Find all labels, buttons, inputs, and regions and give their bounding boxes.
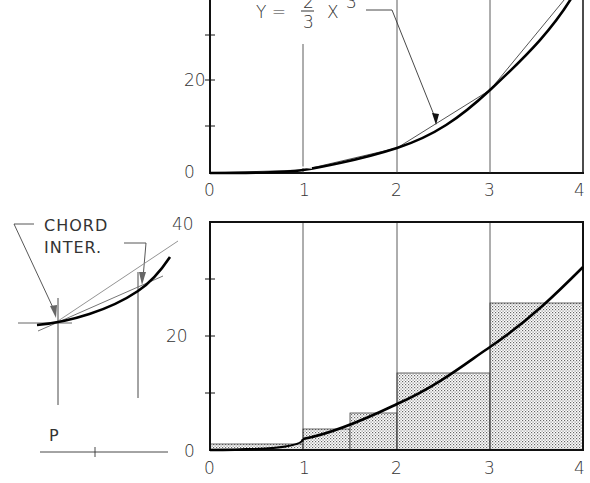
bottom-xtick-1: 1 — [299, 458, 310, 478]
bar-1.5-2 — [350, 413, 397, 450]
bottom-xtick-3: 3 — [484, 458, 495, 478]
top-xtick-4: 4 — [574, 180, 585, 200]
eq-den: 3 — [303, 12, 314, 32]
top-ytick-0: 0 — [184, 162, 195, 182]
bottom-ytick-40: 40 — [172, 214, 194, 234]
top-xtick-1: 1 — [299, 180, 310, 200]
top-xtick-2: 2 — [391, 180, 402, 200]
bottom-ytick-20: 20 — [166, 326, 188, 346]
inset-label-inter: INTER. — [44, 238, 102, 257]
top-chart: Y = 2 3 X 3 20 0 0 1 2 3 4 — [184, 0, 585, 200]
inset-label-p: P — [49, 426, 60, 445]
eq-leader — [366, 10, 436, 120]
bar-2-3 — [397, 373, 490, 450]
top-curve — [210, 0, 583, 173]
bottom-chart: 40 20 0 0 1 2 3 4 — [166, 214, 585, 478]
eq-var: X — [327, 2, 339, 22]
bottom-xtick-4: 4 — [574, 458, 585, 478]
bottom-xtick-2: 2 — [391, 458, 402, 478]
top-xtick-3: 3 — [484, 180, 495, 200]
bottom-ytick-0: 0 — [184, 441, 195, 461]
eq-lhs: Y = — [256, 2, 286, 22]
bar-3-4 — [490, 303, 583, 450]
inset-label-chord: CHORD — [44, 216, 108, 235]
bottom-xtick-0: 0 — [204, 458, 215, 478]
figure: Y = 2 3 X 3 20 0 0 1 2 3 4 — [0, 0, 590, 483]
eq-num: 2 — [303, 0, 314, 12]
top-xtick-0: 0 — [204, 180, 215, 200]
top-ytick-20: 20 — [184, 70, 206, 90]
chord-inset: CHORD INTER. P — [14, 216, 178, 457]
eq-exp: 3 — [346, 0, 357, 12]
